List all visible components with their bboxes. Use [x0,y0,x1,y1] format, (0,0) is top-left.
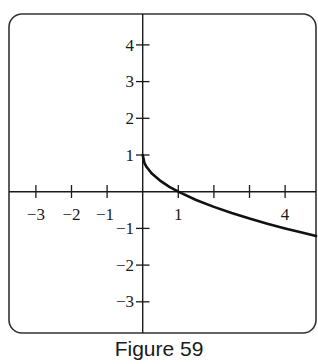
graph-figure: −3 −2 −1 1 4 4 3 2 1 −1 −2 −3 [0,0,318,364]
y-tick-label: 4 [126,36,135,55]
x-tick-label: 1 [174,205,183,224]
graph-frame [9,14,316,333]
y-tick-label: 1 [126,146,135,165]
y-tick-label: 2 [126,109,135,128]
y-tick-label: −3 [116,292,134,311]
y-tick-label: −1 [116,219,134,238]
figure-caption: Figure 59 [0,336,318,362]
x-tick-label: −3 [27,205,45,224]
y-tick-label: −2 [116,256,134,275]
x-tick-label: 4 [281,205,290,224]
x-tick-label: −1 [96,205,114,224]
y-tick-label: 3 [126,72,135,91]
x-tick-label: −2 [62,205,80,224]
